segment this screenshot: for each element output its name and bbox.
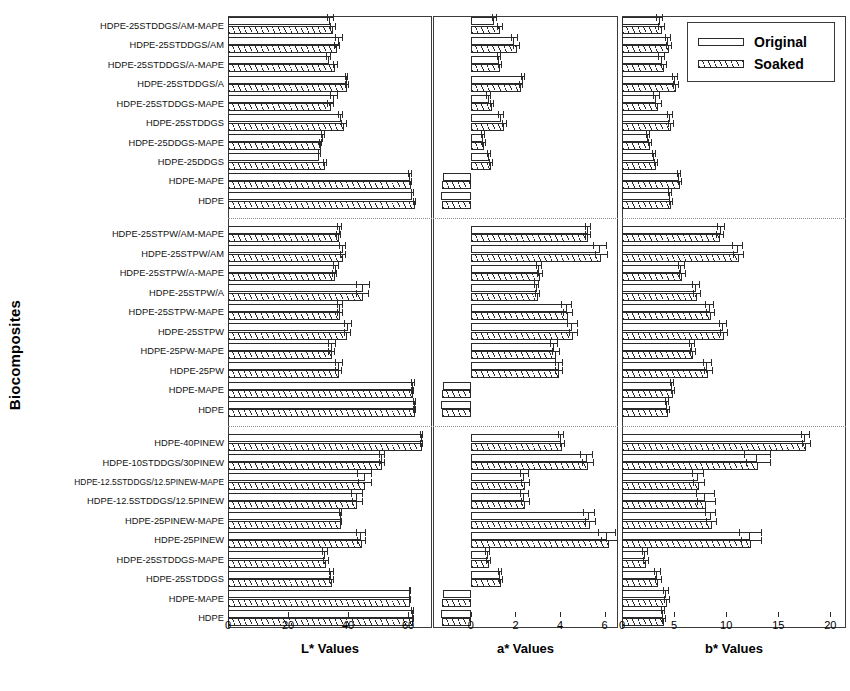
bar-original — [228, 610, 413, 618]
bar-original — [622, 590, 666, 598]
bar-soaked — [622, 273, 682, 281]
axis-tick-label: 40 — [342, 619, 354, 631]
bar-original — [441, 192, 471, 200]
bar-original — [228, 454, 382, 462]
bar-original — [443, 590, 471, 598]
bar-soaked — [228, 579, 332, 587]
bar-original — [471, 114, 501, 122]
bar-original — [228, 473, 365, 481]
bar-soaked — [622, 26, 662, 34]
bar-original — [471, 304, 567, 312]
category-label: HDPE-25STPW/A-MAPE — [120, 268, 224, 278]
bar-original — [228, 590, 410, 598]
axis-tick-label: 20 — [282, 619, 294, 631]
bar-soaked — [228, 409, 415, 417]
bar-original — [228, 551, 325, 559]
bar-original — [228, 304, 340, 312]
bar-soaked — [228, 332, 347, 340]
bar-original — [471, 56, 499, 64]
bar-original — [471, 265, 539, 273]
bar-soaked — [228, 599, 410, 607]
bar-soaked — [622, 64, 664, 72]
bar-soaked — [622, 351, 693, 359]
bar-original — [622, 226, 721, 234]
bar-soaked — [228, 540, 362, 548]
category-label: HDPE-40PINEW — [154, 438, 224, 448]
bar-soaked — [228, 201, 415, 209]
bar-soaked — [471, 540, 609, 548]
bar-soaked — [228, 234, 339, 242]
category-label: HDPE-25STDDGS — [146, 574, 224, 584]
category-label: HDPE — [198, 613, 224, 623]
bar-soaked — [622, 254, 739, 262]
category-label: HDPE-25STPW — [158, 327, 224, 337]
bar-original — [471, 362, 559, 370]
bar-original — [228, 17, 330, 25]
bar-original — [622, 245, 738, 253]
bar-soaked — [622, 332, 724, 340]
axis-tick-label: 10 — [720, 619, 732, 631]
category-label: HDPE-12.5STDDGS/12.5PINEW — [87, 496, 224, 506]
bar-soaked — [471, 351, 556, 359]
bar-soaked — [622, 162, 656, 170]
axis-tick-label: 15 — [772, 619, 784, 631]
bar-soaked — [471, 64, 500, 72]
group-divider — [622, 426, 846, 427]
bar-soaked — [471, 234, 588, 242]
bar-soaked — [471, 501, 526, 509]
bar-original — [471, 493, 524, 501]
category-label: HDPE — [198, 196, 224, 206]
bar-soaked — [471, 312, 568, 320]
bar-original — [228, 532, 361, 540]
bar-original — [622, 17, 660, 25]
category-label: HDPE-25STDDGS/AM — [129, 40, 224, 50]
bar-soaked — [228, 312, 340, 320]
bar-original — [622, 304, 710, 312]
bar-original — [471, 226, 588, 234]
bar-original — [228, 114, 341, 122]
axis-tick — [288, 612, 289, 617]
bar-soaked — [622, 45, 669, 53]
bar-original — [471, 473, 524, 481]
bar-original — [622, 571, 657, 579]
group-divider — [228, 426, 432, 427]
bar-soaked — [228, 521, 341, 529]
axis-tick-label: 5 — [671, 619, 677, 631]
category-label: HDPE-25STPW/AM-MAPE — [112, 229, 224, 239]
bar-soaked — [622, 618, 664, 626]
bar-soaked — [471, 162, 491, 170]
axis-tick — [778, 612, 779, 617]
bar-soaked — [228, 462, 382, 470]
bar-soaked — [471, 370, 559, 378]
bar-soaked — [471, 521, 590, 529]
legend-swatch-original — [698, 38, 744, 46]
bar-original — [228, 401, 415, 409]
bar-original — [228, 284, 363, 292]
bar-soaked — [471, 123, 504, 131]
bar-soaked — [622, 482, 699, 490]
legend-swatch-soaked — [698, 60, 744, 68]
bar-soaked — [471, 26, 500, 34]
legend: Original Soaked — [687, 22, 835, 82]
category-label: HDPE-25STDDGS-MAPE — [117, 555, 224, 565]
bar-original — [228, 76, 347, 84]
panel-b-values — [622, 16, 846, 628]
category-label: HDPE-25PINEW-MAPE — [125, 516, 224, 526]
bar-soaked — [471, 254, 601, 262]
bar-original — [471, 153, 489, 161]
bar-original — [622, 56, 662, 64]
bar-original — [441, 610, 471, 618]
bar-original — [622, 362, 707, 370]
bar-soaked — [622, 84, 676, 92]
bar-original — [471, 323, 572, 331]
category-label: HDPE — [198, 405, 224, 415]
bar-soaked — [228, 123, 344, 131]
bar-soaked — [622, 443, 806, 451]
bar-original — [622, 173, 679, 181]
axis-tick-label: 20 — [824, 619, 836, 631]
bar-original — [228, 434, 422, 442]
axis-tick — [471, 612, 472, 617]
bar-soaked — [622, 540, 751, 548]
bar-soaked — [471, 579, 501, 587]
bar-soaked — [622, 293, 697, 301]
